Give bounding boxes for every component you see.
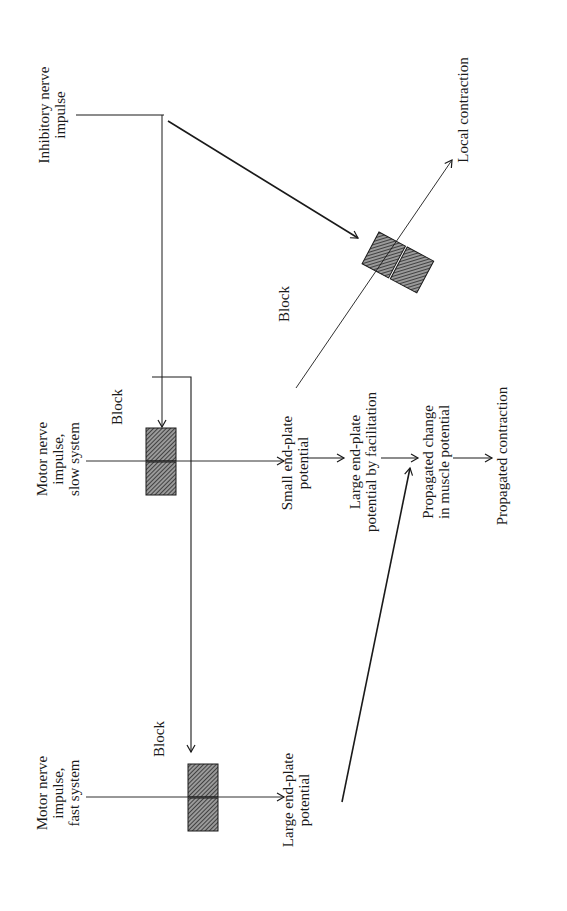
label-line: Inhibitory nerve xyxy=(36,66,52,163)
label-line: impulse, xyxy=(50,756,66,831)
label-line: Block xyxy=(151,721,167,757)
label-line: impulse, xyxy=(50,422,66,497)
label-line: Large end-plate xyxy=(280,753,296,847)
label-line: potential xyxy=(296,753,312,847)
slow-block-icon xyxy=(146,428,176,495)
label-line: slow system xyxy=(66,422,82,497)
small-epp-to-local-contraction-arrow xyxy=(296,160,452,388)
fast-block-icon xyxy=(188,764,218,831)
label-line: in muscle potential xyxy=(436,405,452,519)
motor-slow-label: Motor nerve impulse, slow system xyxy=(34,422,82,497)
motor-fast-label: Motor nerve impulse, fast system xyxy=(34,756,82,831)
block-top-label: Block xyxy=(276,286,292,322)
block-slow-label: Block xyxy=(109,389,125,425)
label-line: Propagated change xyxy=(420,405,436,519)
label-line: Small end-plate xyxy=(279,416,295,511)
top-block-icon xyxy=(362,232,434,293)
label-line: potential by facilitation xyxy=(363,392,379,532)
label-line: Block xyxy=(276,286,292,322)
label-line: Propagated contraction xyxy=(494,387,510,526)
propagated-contraction-label: Propagated contraction xyxy=(494,387,510,526)
inhibitory-nerve-label: Inhibitory nerve impulse xyxy=(36,66,68,163)
label-line: potential xyxy=(295,416,311,511)
label-line: Local contraction xyxy=(455,57,471,162)
label-line: Block xyxy=(109,389,125,425)
inhibitory-to-top-block-arrow xyxy=(168,121,358,238)
large-epp-fast-label: Large end-plate potential xyxy=(280,753,312,847)
label-line: Large end-plate xyxy=(347,392,363,532)
local-contraction-label: Local contraction xyxy=(455,57,471,162)
small-epp-label: Small end-plate potential xyxy=(279,416,311,511)
propagated-change-label: Propagated change in muscle potential xyxy=(420,405,452,519)
label-line: impulse xyxy=(52,66,68,163)
block-fast-label: Block xyxy=(151,721,167,757)
label-line: Motor nerve xyxy=(34,422,50,497)
label-line: Motor nerve xyxy=(34,756,50,831)
large-epp-facilitation-label: Large end-plate potential by facilitatio… xyxy=(347,392,379,532)
label-line: fast system xyxy=(66,756,82,831)
